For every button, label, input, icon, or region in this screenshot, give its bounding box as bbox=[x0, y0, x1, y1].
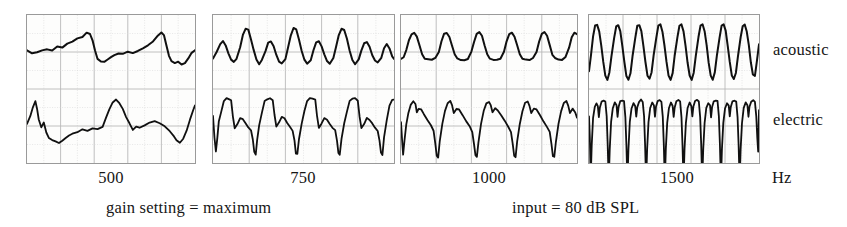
oscilloscope-panel-1000hz bbox=[400, 14, 578, 164]
panel-traces-1000hz bbox=[401, 15, 577, 163]
tick-label-1500: 1500 bbox=[637, 168, 717, 188]
panel-traces-500hz bbox=[27, 15, 195, 163]
electric-trace-500hz bbox=[27, 100, 195, 144]
waveform-figure: acoustic electric 500 750 1000 1500 Hz g… bbox=[0, 0, 847, 227]
acoustic-trace-1500hz bbox=[589, 24, 759, 80]
panel-traces-750hz bbox=[213, 15, 394, 163]
acoustic-trace-1000hz bbox=[401, 32, 577, 60]
tick-label-1000: 1000 bbox=[449, 168, 529, 188]
row-label-electric: electric bbox=[773, 110, 823, 130]
row-label-acoustic: acoustic bbox=[773, 40, 829, 60]
panel-traces-1500hz bbox=[589, 15, 759, 163]
acoustic-trace-750hz bbox=[213, 28, 394, 64]
acoustic-trace-500hz bbox=[27, 33, 195, 65]
oscilloscope-panel-1500hz bbox=[588, 14, 760, 164]
oscilloscope-panel-750hz bbox=[212, 14, 395, 164]
axis-unit-label-hz: Hz bbox=[772, 168, 791, 188]
tick-label-750: 750 bbox=[263, 168, 343, 188]
caption-input-level: input = 80 dB SPL bbox=[512, 198, 639, 218]
tick-label-500: 500 bbox=[71, 168, 151, 188]
electric-trace-750hz bbox=[213, 98, 394, 155]
oscilloscope-panel-500hz bbox=[26, 14, 196, 164]
electric-trace-1000hz bbox=[401, 101, 577, 158]
caption-gain-setting: gain setting = maximum bbox=[106, 198, 271, 218]
electric-trace-1500hz bbox=[589, 100, 759, 164]
